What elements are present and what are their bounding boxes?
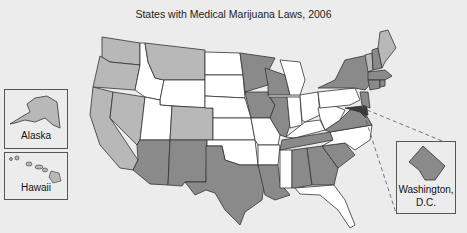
dc-connector-line [367, 110, 452, 145]
state-maine [378, 30, 396, 68]
alaska-inset: Alaska [4, 89, 68, 149]
state-new-mexico [168, 140, 207, 186]
state-ohio [300, 92, 320, 122]
state-indiana [287, 97, 302, 128]
state-pennsylvania [318, 88, 360, 108]
state-arizona [133, 140, 170, 185]
state-new-york [318, 55, 372, 90]
hawaii-label: Hawaii [5, 182, 67, 193]
state-massachusetts [368, 70, 392, 80]
dc-label-line2: D.C. [397, 197, 455, 208]
state-mississippi [280, 150, 292, 188]
dc-label-line1: Washington, [397, 184, 455, 195]
state-rhode-island [380, 80, 385, 87]
state-connecticut [368, 80, 380, 90]
state-new-jersey [360, 92, 370, 108]
state-arkansas [258, 145, 280, 165]
hawaii-shape [5, 153, 67, 185]
state-north-dakota [205, 52, 243, 75]
state-montana [145, 43, 205, 80]
state-florida [295, 185, 355, 228]
hawaii-inset: Hawaii [4, 152, 68, 200]
alaska-label: Alaska [5, 130, 67, 141]
alaska-shape [5, 90, 67, 132]
state-colorado [170, 106, 213, 140]
state-south-dakota [205, 75, 245, 98]
state-kansas [213, 118, 255, 140]
dc-inset: Washington, D.C. [396, 141, 456, 214]
state-wyoming [160, 80, 205, 108]
dc-shape [397, 142, 455, 184]
dc-connector-line [364, 114, 396, 213]
